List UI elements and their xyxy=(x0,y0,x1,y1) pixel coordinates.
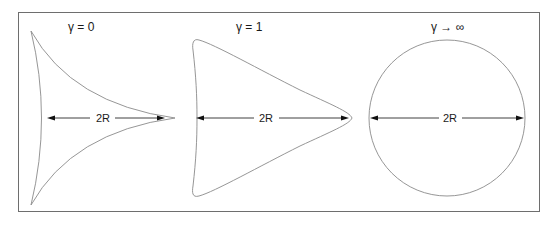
arrowhead-right-icon xyxy=(516,116,524,121)
dimension-arrow: 2R xyxy=(196,112,349,124)
arrowhead-left-icon xyxy=(370,116,378,121)
arrowhead-right-icon xyxy=(341,116,349,121)
diagram-canvas: γ = 0 2R γ = 1 2R γ → ∞ xyxy=(0,0,556,225)
arrowhead-left-icon xyxy=(47,116,55,121)
figure-container: γ = 0 2R γ = 1 2R γ → ∞ xyxy=(0,0,556,225)
dimension-label: 2R xyxy=(443,112,457,124)
panel-gamma-1: γ = 1 2R xyxy=(193,20,352,196)
dimension-arrow: 2R xyxy=(370,112,524,124)
panel-gamma-inf: γ → ∞ 2R xyxy=(369,20,525,196)
panel-title: γ = 1 xyxy=(236,20,263,34)
panel-gamma-0: γ = 0 2R xyxy=(31,20,175,205)
panel-title: γ → ∞ xyxy=(431,20,464,34)
dimension-label: 2R xyxy=(259,112,273,124)
dimension-arrow: 2R xyxy=(47,112,165,124)
dimension-label: 2R xyxy=(96,112,110,124)
panel-title: γ = 0 xyxy=(68,20,95,34)
